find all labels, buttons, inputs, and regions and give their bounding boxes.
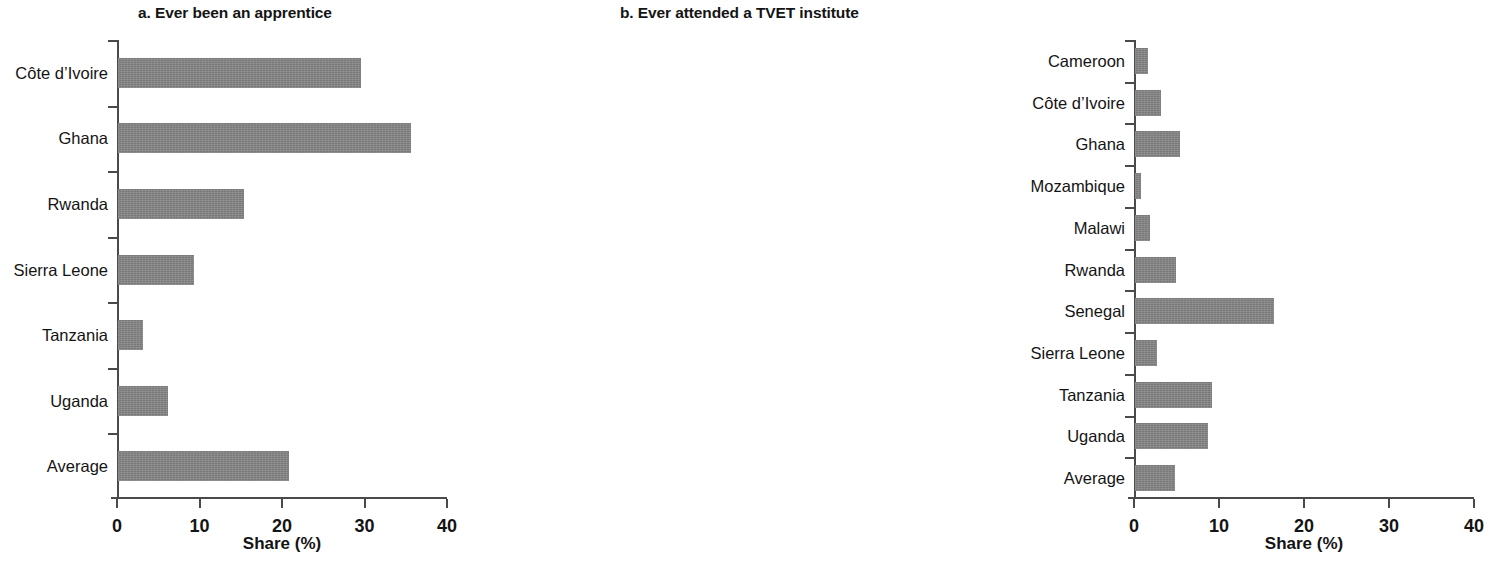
y-tick-b-1 (1125, 82, 1134, 84)
bar-b-7 (1135, 340, 1157, 366)
panel-a-title: a. Ever been an apprentice (0, 4, 470, 22)
y-tick-b-2 (1125, 123, 1134, 125)
x-tick-a-30 (364, 499, 366, 508)
bar-b-2 (1135, 131, 1180, 157)
y-tick-a-4 (108, 302, 117, 304)
category-label-a-2: Rwanda (47, 194, 108, 213)
panel-b-title: b. Ever attended a TVET institute (500, 4, 1488, 22)
bar-b-8 (1135, 382, 1212, 408)
x-tick-label-a-30: 30 (354, 516, 374, 537)
y-tick-b-0 (1125, 40, 1134, 42)
y-tick-a-2 (108, 171, 117, 173)
panel-a-x-axis (111, 497, 447, 499)
panel-b-tvet: b. Ever attended a TVET institute 010203… (500, 0, 1001, 567)
x-tick-b-30 (1388, 499, 1390, 508)
category-label-b-7: Sierra Leone (1031, 343, 1125, 362)
x-tick-b-0 (1133, 499, 1135, 508)
x-tick-label-b-30: 30 (1379, 516, 1399, 537)
panel-a-apprenticeship: a. Ever been an apprentice 010203040Côte… (0, 0, 500, 567)
panel-a-x-axis-title: Share (%) (243, 534, 321, 554)
bar-b-5 (1135, 257, 1176, 283)
category-label-b-5: Rwanda (1064, 260, 1125, 279)
x-tick-b-40 (1473, 499, 1475, 508)
bar-b-3 (1135, 173, 1141, 199)
bar-b-1 (1135, 90, 1161, 116)
category-label-a-5: Uganda (50, 391, 108, 410)
category-label-a-1: Ghana (58, 129, 108, 148)
x-tick-b-10 (1218, 499, 1220, 508)
x-tick-a-10 (199, 499, 201, 508)
y-tick-b-6 (1125, 290, 1134, 292)
x-tick-label-b-40: 40 (1464, 516, 1484, 537)
x-tick-a-0 (116, 499, 118, 508)
category-label-b-9: Uganda (1067, 427, 1125, 446)
bar-a-4 (118, 320, 143, 350)
x-tick-a-20 (281, 499, 283, 508)
panel-b-plot-area: 010203040CameroonCôte d’IvoireGhanaMozam… (1134, 40, 1474, 499)
x-tick-b-20 (1303, 499, 1305, 508)
y-tick-a-0 (108, 40, 117, 42)
category-label-b-4: Malawi (1074, 218, 1125, 237)
category-label-a-0: Côte d’Ivoire (15, 63, 108, 82)
bar-b-6 (1135, 298, 1274, 324)
category-label-b-1: Côte d’Ivoire (1032, 93, 1125, 112)
panel-b-x-axis-title: Share (%) (1265, 534, 1343, 554)
y-tick-b-3 (1125, 165, 1134, 167)
bar-a-6 (118, 451, 289, 481)
y-tick-b-9 (1125, 416, 1134, 418)
bar-a-5 (118, 386, 168, 416)
category-label-b-0: Cameroon (1048, 51, 1125, 70)
bar-a-3 (118, 255, 194, 285)
y-tick-b-10 (1125, 457, 1134, 459)
y-tick-a-1 (108, 106, 117, 108)
bar-b-10 (1135, 465, 1175, 491)
x-tick-label-a-10: 10 (189, 516, 209, 537)
x-tick-label-a-0: 0 (112, 516, 122, 537)
bar-b-4 (1135, 215, 1150, 241)
panel-a-plot-area: 010203040Côte d’IvoireGhanaRwandaSierra … (117, 40, 447, 499)
x-tick-label-b-10: 10 (1209, 516, 1229, 537)
category-label-b-10: Average (1064, 469, 1125, 488)
y-tick-b-4 (1125, 207, 1134, 209)
category-label-b-8: Tanzania (1059, 385, 1125, 404)
y-tick-a-5 (108, 368, 117, 370)
x-tick-label-b-0: 0 (1129, 516, 1139, 537)
panel-b-x-axis (1128, 497, 1474, 499)
y-tick-b-7 (1125, 332, 1134, 334)
category-label-a-3: Sierra Leone (14, 260, 108, 279)
bar-b-9 (1135, 423, 1208, 449)
bar-a-2 (118, 189, 244, 219)
y-tick-b-5 (1125, 249, 1134, 251)
category-label-b-3: Mozambique (1031, 177, 1125, 196)
bar-a-0 (118, 58, 361, 88)
category-label-a-6: Average (47, 457, 108, 476)
x-tick-label-a-40: 40 (437, 516, 457, 537)
category-label-b-6: Senegal (1064, 302, 1125, 321)
bar-b-0 (1135, 48, 1148, 74)
category-label-b-2: Ghana (1075, 135, 1125, 154)
bar-a-1 (118, 123, 411, 153)
y-tick-b-8 (1125, 374, 1134, 376)
y-tick-a-3 (108, 237, 117, 239)
x-tick-a-40 (446, 499, 448, 508)
y-tick-a-6 (108, 433, 117, 435)
category-label-a-4: Tanzania (42, 326, 108, 345)
